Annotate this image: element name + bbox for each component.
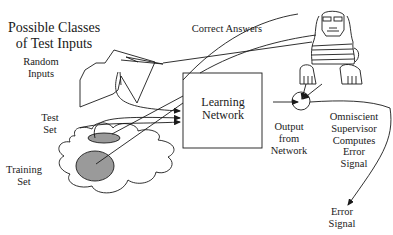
correct-answer-curve-2 (200, 35, 316, 73)
error-signal-label: Error Signal (322, 206, 362, 230)
training-input-arrow (80, 122, 180, 128)
diagram-title: Possible Classes of Test Inputs (6, 20, 102, 51)
random-inputs-scribble (80, 50, 163, 107)
test-set-label: Test Set (35, 112, 65, 136)
correct-answers-label: Correct Answers (177, 23, 277, 35)
test-set-ellipse (88, 133, 120, 143)
random-inputs-label: Random Inputs (16, 56, 66, 80)
training-cloud (59, 123, 174, 193)
sphinx-supervisor-icon (300, 11, 362, 84)
training-set-label: Training Set (2, 164, 46, 188)
omniscient-supervisor-label: Omniscient Supervisor Computes Error Sig… (318, 111, 390, 170)
comparison-circle (292, 92, 310, 110)
supervised-learning-diagram: Possible Classes of Test Inputs Random I… (0, 0, 393, 235)
learning-network-label: Learning Network (188, 96, 258, 123)
correct-answer-line-random (163, 42, 312, 63)
output-from-network-label: Output from Network (264, 121, 314, 156)
